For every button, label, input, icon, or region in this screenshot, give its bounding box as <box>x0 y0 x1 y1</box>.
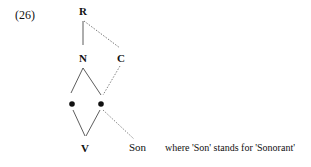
node-n: N <box>79 53 87 64</box>
edge-n-dot-right <box>83 68 101 95</box>
edge-dot-left-v <box>73 110 85 136</box>
timing-slot-left <box>69 101 75 107</box>
node-r: R <box>79 6 87 17</box>
timing-slot-right <box>98 101 104 107</box>
node-son: Son <box>129 142 146 153</box>
node-c: C <box>117 53 125 64</box>
edge-r-c-dotted <box>84 21 120 48</box>
edge-c-dot-right-dotted <box>103 66 120 95</box>
footnote-text: where 'Son' stands for 'Sonorant' <box>165 142 295 153</box>
node-v: V <box>81 143 89 154</box>
edge-n-dot-left <box>71 68 83 93</box>
edge-dot-right-v <box>86 110 100 136</box>
edge-dot-right-son-dotted <box>103 110 134 139</box>
